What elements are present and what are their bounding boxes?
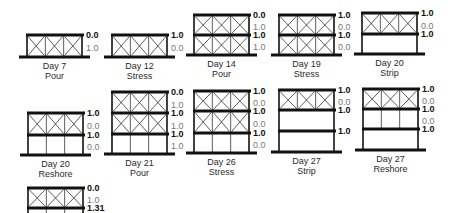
frame-drawing: [0, 0, 453, 213]
load-ratio-value: 1.31: [87, 204, 105, 213]
shoring-sequence-diagram: 0.01.0Day 7Pour1.00.0Day 12Stress0.01.01…: [0, 0, 453, 213]
load-ratio-value: 0.0: [87, 184, 100, 193]
